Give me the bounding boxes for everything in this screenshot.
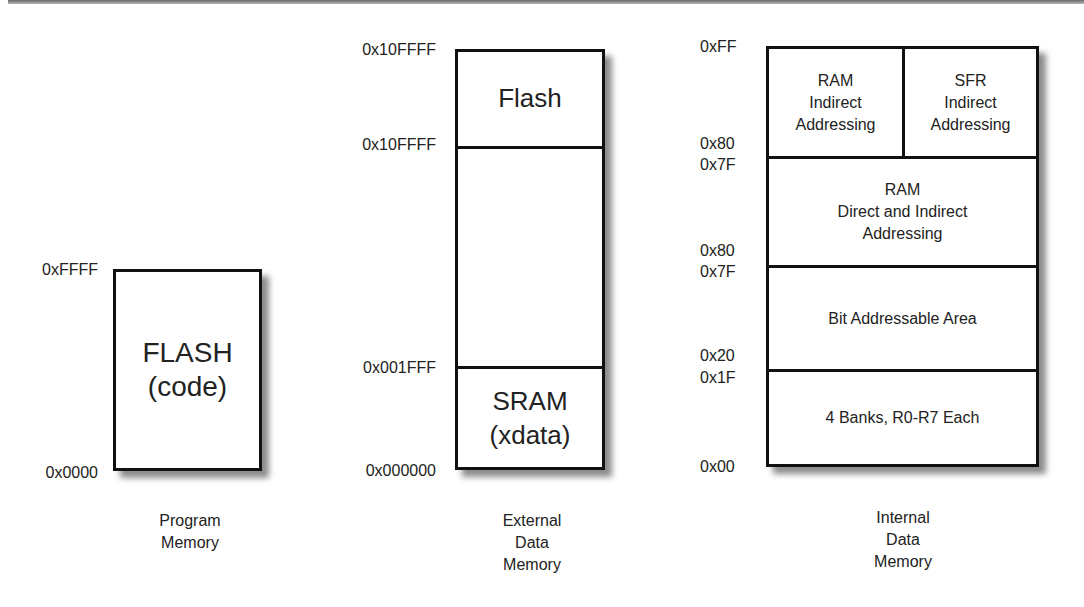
- top-divider-rule: [8, 0, 1084, 4]
- address-label: 0x001FFF: [330, 359, 436, 377]
- address-label: 0x10FFFF: [330, 41, 436, 59]
- block-sublabel: (code): [148, 370, 227, 404]
- address-label: 0x80: [690, 242, 756, 260]
- address-label: 0x0000: [18, 464, 98, 482]
- sfr-indirect-region: SFR Indirect Addressing: [905, 49, 1036, 156]
- address-label: 0xFF: [690, 38, 756, 56]
- ram-indirect-region: RAM Indirect Addressing: [769, 49, 902, 156]
- block-label: FLASH: [142, 336, 232, 370]
- address-label: 0x7F: [690, 156, 756, 174]
- internal-memory-stack: RAM Indirect Addressing SFR Indirect Add…: [766, 46, 1039, 467]
- internal-data-memory-caption: Internal Data Memory: [833, 507, 973, 573]
- address-label: 0x20: [690, 347, 756, 365]
- unmapped-region: [458, 149, 602, 366]
- flash-code-block: FLASH (code): [113, 269, 262, 471]
- flash-region: Flash: [458, 52, 602, 146]
- ram-direct-indirect-region: RAM Direct and Indirect Addressing: [769, 159, 1036, 265]
- address-label: 0xFFFF: [18, 261, 98, 279]
- address-label: 0x80: [690, 135, 756, 153]
- program-memory-caption: Program Memory: [120, 510, 260, 554]
- bit-addressable-region: Bit Addressable Area: [769, 268, 1036, 369]
- address-label: 0x1F: [690, 369, 756, 387]
- address-label: 0x00: [690, 458, 756, 476]
- external-data-memory-caption: External Data Memory: [462, 510, 602, 576]
- address-label: 0x10FFFF: [330, 136, 436, 154]
- register-banks-region: 4 Banks, R0-R7 Each: [769, 372, 1036, 464]
- address-label: 0x000000: [330, 462, 436, 480]
- address-label: 0x7F: [690, 263, 756, 281]
- external-memory-stack: Flash SRAM (xdata): [455, 49, 605, 470]
- sram-xdata-region: SRAM (xdata): [458, 369, 602, 467]
